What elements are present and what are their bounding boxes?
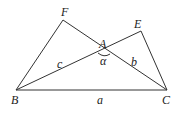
label-point-f: F xyxy=(60,5,69,19)
label-point-c: C xyxy=(162,93,171,107)
segment-be xyxy=(16,31,141,90)
label-side-a: a xyxy=(97,93,103,107)
triangle-diagram: F E A B C a b c α xyxy=(0,0,181,117)
label-point-e: E xyxy=(133,17,142,31)
label-point-b: B xyxy=(11,93,19,107)
segment-bf xyxy=(16,20,63,90)
label-point-a: A xyxy=(98,37,107,51)
label-side-c: c xyxy=(57,57,63,71)
label-angle-alpha: α xyxy=(100,54,107,68)
label-side-b: b xyxy=(131,55,137,69)
